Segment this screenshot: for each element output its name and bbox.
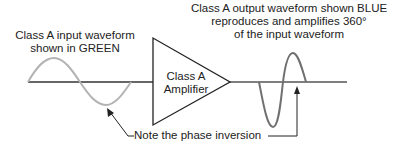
output-waveform [259,53,306,127]
note-leader-right [268,92,297,136]
input-label-line1: Class A input waveform [4,29,146,42]
amplifier-label: Class A Amplifier [150,70,222,96]
output-label-line3: of the input waveform [178,28,400,41]
output-label-line1: Class A output waveform shown BLUE [178,2,400,15]
output-waveform-label: Class A output waveform shown BLUE repro… [178,2,400,41]
phase-inversion-note: Note the phase inversion [134,129,261,142]
input-waveform-label: Class A input waveform shown in GREEN [4,29,146,55]
input-label-line2: shown in GREEN [4,42,146,55]
arrowhead-right-icon [294,86,300,94]
note-leader-left [110,112,134,136]
output-label-line2: reproduces and amplifies 360° [178,15,400,28]
amplifier-label-line1: Class A [150,70,222,83]
amplifier-label-line2: Amplifier [150,83,222,96]
